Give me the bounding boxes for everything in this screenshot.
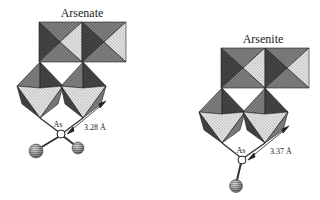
lower-octahedra [199,88,288,143]
arsenic-atom [238,156,246,164]
arsenate-panel: Arsenate [17,6,126,158]
arsenite-title: Arsenite [243,32,284,46]
arsenic-atom [57,130,65,138]
oxygen-ligands [230,180,243,193]
ligand-ball-2-shading [72,142,84,154]
arsenite-panel: Arsenite A [199,32,309,193]
arsenic-label: As [54,120,63,129]
top-octahedra-sheet [39,22,126,62]
arsenate-title: Arsenate [61,6,104,20]
top-octahedra-sheet [221,48,309,88]
oxygen-ligands [29,142,84,158]
ligand-ball-1-shading [29,144,43,158]
ligand-ball-1-shading [230,180,243,193]
distance-label: 3.37 Å [270,147,292,156]
figure-canvas: Arsenate [0,0,320,200]
lower-octahedra [17,62,106,118]
distance-label: 3.28 Å [84,123,106,132]
arsenic-label: As [237,146,246,155]
